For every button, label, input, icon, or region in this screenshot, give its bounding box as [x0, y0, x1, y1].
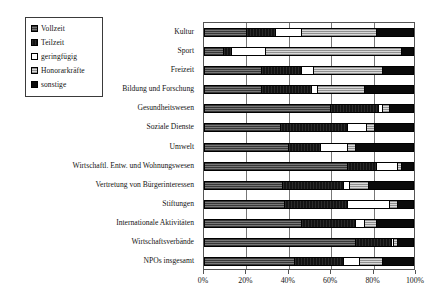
plot-area: [203, 22, 415, 270]
bar-row[interactable]: [204, 143, 414, 152]
x-tickmark: [245, 270, 246, 274]
legend-item[interactable]: Honorarkräfte: [31, 64, 98, 77]
category-label: Vertretung von Bürgerinteressen: [95, 180, 194, 189]
bar-row[interactable]: [204, 28, 414, 37]
legend-item[interactable]: Teilzeit: [31, 36, 98, 49]
bar-segment[interactable]: [265, 47, 402, 56]
bar-segment[interactable]: [284, 200, 347, 209]
legend-swatch-sonstige: [31, 81, 38, 88]
bar-segment[interactable]: [204, 257, 294, 266]
bar-segment[interactable]: [204, 219, 301, 228]
bar-segment[interactable]: [397, 238, 414, 247]
bar-segment[interactable]: [389, 200, 397, 209]
x-tick-label: 20%: [238, 276, 252, 286]
bar-segment[interactable]: [246, 28, 275, 37]
bar-segment[interactable]: [382, 257, 414, 266]
category-label: Internationale Aktivitäten: [116, 218, 194, 227]
category-label: Bildung und Forschung: [122, 84, 194, 93]
bar-segment[interactable]: [401, 162, 414, 171]
bar-segment[interactable]: [355, 219, 363, 228]
bar-segment[interactable]: [366, 123, 374, 132]
bar-segment[interactable]: [397, 200, 414, 209]
x-tick-label: 0%: [198, 276, 208, 286]
bar-segment[interactable]: [347, 162, 376, 171]
bar-row[interactable]: [204, 162, 414, 171]
legend-item[interactable]: Vollzeit: [31, 22, 98, 35]
bar-segment[interactable]: [343, 257, 360, 266]
bar-segment[interactable]: [231, 47, 265, 56]
bar-segment[interactable]: [374, 123, 414, 132]
bar-segment[interactable]: [347, 143, 355, 152]
x-tickmark: [415, 270, 416, 274]
bar-segment[interactable]: [204, 28, 246, 37]
bar-segment[interactable]: [382, 66, 414, 75]
bar-segment[interactable]: [301, 28, 377, 37]
category-label: Stiftungen: [162, 199, 194, 208]
bar-segment[interactable]: [301, 66, 314, 75]
bar-segment[interactable]: [261, 66, 301, 75]
bar-segment[interactable]: [275, 28, 300, 37]
bar-segment[interactable]: [204, 162, 347, 171]
bar-segment[interactable]: [364, 219, 377, 228]
bar-segment[interactable]: [223, 47, 231, 56]
bar-segment[interactable]: [355, 143, 414, 152]
bar-segment[interactable]: [204, 200, 284, 209]
bar-segment[interactable]: [204, 238, 355, 247]
bar-segment[interactable]: [294, 257, 342, 266]
category-label: Soziale Dienste: [147, 122, 194, 131]
bar-segment[interactable]: [401, 47, 414, 56]
bar-row[interactable]: [204, 238, 414, 247]
x-tick-label: 100%: [406, 276, 424, 286]
bar-segment[interactable]: [376, 162, 397, 171]
bar-segment[interactable]: [389, 104, 414, 113]
bar-segment[interactable]: [320, 143, 347, 152]
bar-segment[interactable]: [204, 85, 261, 94]
bar-segment[interactable]: [204, 47, 223, 56]
bar-segment[interactable]: [376, 28, 414, 37]
bar-segment[interactable]: [376, 219, 414, 228]
legend-item[interactable]: sonstige: [31, 78, 98, 91]
x-tickmark: [288, 270, 289, 274]
bar-segment[interactable]: [280, 123, 347, 132]
bar-segment[interactable]: [204, 66, 261, 75]
x-tickmark: [373, 270, 374, 274]
x-axis-tickmarks: [203, 270, 415, 275]
x-tick-label: 80%: [365, 276, 379, 286]
category-label: Umwelt: [170, 142, 194, 151]
legend-item-label: Teilzeit: [41, 38, 64, 47]
legend-item-label: sonstige: [41, 80, 66, 89]
bar-segment[interactable]: [313, 66, 382, 75]
legend-swatch-geringfuegig: [31, 53, 38, 60]
bar-row[interactable]: [204, 123, 414, 132]
bar-segment[interactable]: [317, 85, 363, 94]
bar-segment[interactable]: [204, 123, 280, 132]
category-label: Freizeit: [171, 65, 194, 74]
bar-segment[interactable]: [204, 104, 330, 113]
bar-row[interactable]: [204, 47, 414, 56]
bar-row[interactable]: [204, 200, 414, 209]
bar-segment[interactable]: [368, 181, 414, 190]
bar-segment[interactable]: [282, 181, 343, 190]
bar-segment[interactable]: [261, 85, 311, 94]
bar-segment[interactable]: [347, 123, 366, 132]
bar-segment[interactable]: [355, 238, 391, 247]
bar-segment[interactable]: [349, 181, 368, 190]
bar-row[interactable]: [204, 219, 414, 228]
bar-row[interactable]: [204, 104, 414, 113]
legend-item-label: Vollzeit: [41, 24, 65, 33]
bar-segment[interactable]: [288, 143, 320, 152]
bar-rows: [204, 23, 414, 269]
bar-segment[interactable]: [364, 85, 414, 94]
bar-segment[interactable]: [330, 104, 378, 113]
bar-segment[interactable]: [204, 143, 288, 152]
bar-row[interactable]: [204, 66, 414, 75]
bar-row[interactable]: [204, 181, 414, 190]
bar-row[interactable]: [204, 85, 414, 94]
legend-swatch-teilzeit: [31, 39, 38, 46]
bar-segment[interactable]: [204, 181, 282, 190]
bar-segment[interactable]: [347, 200, 389, 209]
bar-row[interactable]: [204, 257, 414, 266]
legend-item[interactable]: geringfügig: [31, 50, 98, 63]
bar-segment[interactable]: [359, 257, 382, 266]
bar-segment[interactable]: [301, 219, 356, 228]
